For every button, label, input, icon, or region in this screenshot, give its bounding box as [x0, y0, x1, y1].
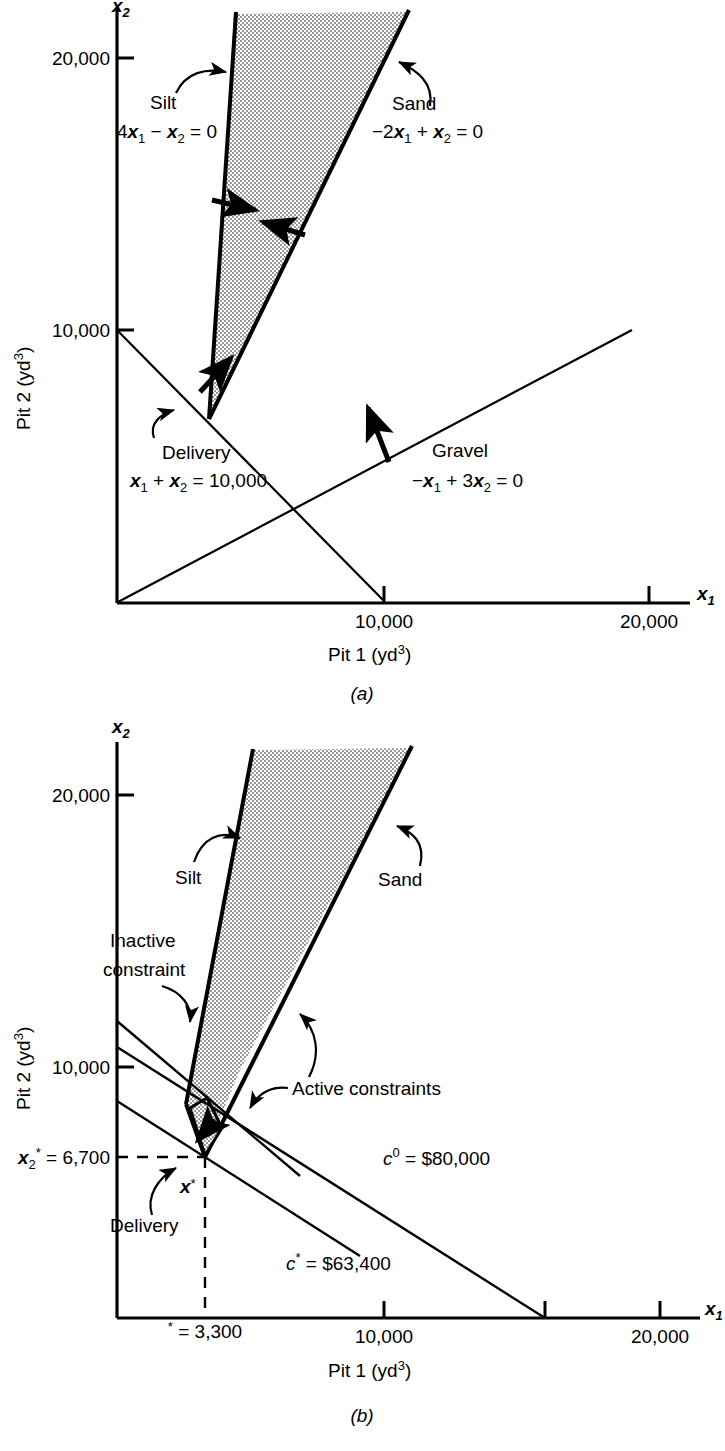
active-constraints-leader-b [250, 1088, 288, 1108]
sand-label-b: Sand [378, 869, 422, 890]
cstar-value-b: = $63,400 [301, 1253, 391, 1274]
delivery-leader-b [150, 1168, 176, 1215]
y-tick-label-10000-a: 10,000 [52, 320, 110, 341]
c0-sup-b: 0 [393, 1145, 400, 1160]
x-tick-label-10000-a: 10,000 [355, 611, 413, 632]
inactive-constraint-label-line2-b: constraint [103, 959, 186, 980]
cstar-label-b: c* = $63,400 [286, 1250, 391, 1274]
panel-letter-a: (a) [350, 683, 373, 704]
y-axis-name-b: x2 [111, 716, 131, 741]
y-axis-title-a: Pit 2 (yd3) [11, 347, 34, 430]
svg-text:x1: x1 [696, 583, 715, 608]
y-axis-name-a: x2 [111, 0, 131, 20]
active-constraints-label-b: Active constraints [292, 1078, 441, 1099]
sand-label-a: Sand [392, 93, 436, 114]
x-axis-title-a: Pit 1 (yd3) [328, 642, 411, 665]
inactive-constraint-leader-b [162, 986, 190, 1022]
silt-leader-a [176, 71, 226, 93]
sand-leader-b [397, 826, 421, 866]
x-axis-title-sup-a: 3 [398, 642, 405, 657]
x-tick-label-20000-a: 20,000 [620, 611, 678, 632]
y-axis-sub-a: 2 [122, 5, 131, 20]
y-tick-label-20000-a: 20,000 [52, 48, 110, 69]
figure-root: 20,000 10,000 10,000 20,000 x2 x1 Pit 1 … [0, 0, 725, 1451]
sand-equation-a: −2x1 + x2 = 0 [372, 121, 483, 146]
y-axis-title-sup-a: 3 [11, 353, 26, 360]
active-constraints-leader2-b [300, 1014, 316, 1077]
x-axis-name-a: x1 [696, 583, 715, 608]
inactive-constraint-label-line1-b: Inactive [110, 930, 175, 951]
x1-star-label-b: * = 3,300 [168, 1319, 242, 1342]
x-axis-sub-b: 1 [716, 1308, 723, 1323]
x-axis-title-end-b: ) [405, 1360, 411, 1381]
svg-text:x1: x1 [704, 1298, 723, 1323]
y-tick-label-20000-b: 20,000 [52, 785, 110, 806]
y-tick-label-10000-b: 10,000 [52, 1057, 110, 1078]
x2-star-label-b: x2* = 6,700 [17, 1145, 110, 1172]
x2-star-value-b: = 6,700 [41, 1147, 110, 1168]
delivery-line-a [117, 330, 384, 601]
svg-text:x2: x2 [111, 0, 131, 20]
y-axis-title-sup-b: 3 [11, 1033, 26, 1040]
gravel-normal-arrow-a [368, 408, 389, 462]
figure-svg: 20,000 10,000 10,000 20,000 x2 x1 Pit 1 … [0, 0, 725, 1451]
x-axis-title-sup-b: 3 [398, 1358, 405, 1373]
c0-label-b: c0 = $80,000 [383, 1145, 490, 1169]
gravel-label-a: Gravel [432, 440, 488, 461]
silt-label-b: Silt [175, 867, 202, 888]
x2-star-sub-b: 2 [29, 1157, 36, 1172]
x-tick-label-10000-b: 10,000 [355, 1326, 413, 1347]
y-axis-title-end-a: ) [13, 347, 34, 353]
svg-text:Pit 2 (yd3): Pit 2 (yd3) [11, 1027, 34, 1110]
delivery-label-b: Delivery [110, 1215, 179, 1236]
y-axis-title-main-b: Pit 2 (yd [13, 1040, 34, 1110]
x-axis-sub-a: 1 [708, 593, 715, 608]
x-axis-title-b: Pit 1 (yd3) [328, 1358, 411, 1381]
x-axis-title-main-a: Pit 1 (yd [328, 644, 398, 665]
x1-star-value-b: = 3,300 [173, 1321, 242, 1342]
panel-b: 20,000 10,000 10,000 20,000 x2* = 6,700 … [11, 716, 723, 1426]
y-axis-title-main-a: Pit 2 (yd [13, 360, 34, 430]
c0-value-b: = $80,000 [400, 1148, 490, 1169]
x-axis-title-main-b: Pit 1 (yd [328, 1360, 398, 1381]
c0-symbol-b: c [383, 1148, 393, 1169]
svg-text:x2: x2 [111, 716, 131, 741]
silt-label-a: Silt [150, 92, 177, 113]
panel-letter-b: (b) [350, 1405, 373, 1426]
y-axis-title-b: Pit 2 (yd3) [11, 1027, 34, 1110]
x-axis-name-b: x1 [704, 1298, 723, 1323]
delivery-label-a: Delivery [162, 442, 231, 463]
x-axis-title-end-a: ) [405, 644, 411, 665]
cstar-symbol-b: c [286, 1253, 296, 1274]
y-axis-sub-b: 2 [122, 726, 131, 741]
svg-text:Pit 1 (yd3): Pit 1 (yd3) [328, 1358, 411, 1381]
gravel-line-a [118, 330, 632, 602]
silt-equation-a: 4x1 − x2 = 0 [117, 121, 217, 146]
svg-text:Pit 2 (yd3): Pit 2 (yd3) [11, 347, 34, 430]
gravel-equation-a: −x1 + 3x2 = 0 [412, 470, 523, 495]
delivery-leader-a [153, 410, 174, 438]
x-tick-label-20000-b: 20,000 [631, 1326, 689, 1347]
delivery-equation-a: x1 + x2 = 10,000 [129, 470, 267, 495]
y-axis-title-end-b: ) [13, 1027, 34, 1033]
svg-text:Pit 1 (yd3): Pit 1 (yd3) [328, 642, 411, 665]
panel-a: 20,000 10,000 10,000 20,000 x2 x1 Pit 1 … [11, 0, 715, 704]
optimum-point-label-b: x* [179, 1176, 196, 1197]
